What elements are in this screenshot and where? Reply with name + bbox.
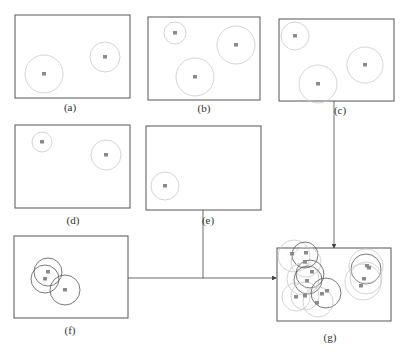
data-point — [359, 284, 363, 288]
data-point — [363, 63, 367, 67]
data-point — [173, 31, 177, 35]
data-point — [104, 153, 108, 157]
panel-frame — [146, 126, 261, 210]
panel-frame — [277, 248, 391, 321]
panel-label: (a) — [64, 101, 77, 114]
panel-label: (g) — [324, 331, 337, 344]
data-point — [367, 266, 371, 270]
data-point — [293, 34, 297, 38]
panel-g: (g) — [277, 240, 391, 344]
panel-label: (f) — [65, 324, 76, 337]
data-point — [305, 279, 309, 283]
data-point — [63, 288, 67, 292]
data-point — [40, 140, 44, 144]
data-point — [290, 252, 294, 256]
panel-e: (e) — [146, 126, 261, 227]
panel-label: (d) — [67, 214, 80, 227]
panel-c: (c) — [279, 19, 394, 117]
panel-frame — [15, 15, 130, 98]
diagram-canvas: (a)(b)(c)(d)(e)(f)(g) — [0, 0, 407, 352]
panel-a: (a) — [15, 15, 130, 114]
data-point — [304, 251, 308, 255]
data-point — [316, 82, 320, 86]
data-point — [315, 301, 319, 305]
data-point — [362, 277, 366, 281]
data-point — [42, 72, 46, 76]
data-point — [303, 294, 307, 298]
data-point — [234, 43, 238, 47]
data-point — [310, 270, 314, 274]
data-point — [43, 277, 47, 281]
panel-frame — [15, 125, 130, 208]
panel-f: (f) — [14, 236, 128, 337]
data-point — [193, 75, 197, 79]
panel-label: (e) — [202, 214, 215, 227]
data-point — [303, 260, 307, 264]
panels: (a)(b)(c)(d)(e)(f)(g) — [14, 15, 394, 344]
panel-d: (d) — [15, 125, 130, 227]
panel-label: (c) — [334, 104, 347, 117]
panel-label: (b) — [198, 102, 211, 115]
data-point — [320, 292, 324, 296]
data-point — [103, 55, 107, 59]
data-point — [294, 295, 298, 299]
data-point — [46, 270, 50, 274]
data-point — [163, 184, 167, 188]
data-point — [325, 289, 329, 293]
panel-b: (b) — [148, 17, 260, 115]
